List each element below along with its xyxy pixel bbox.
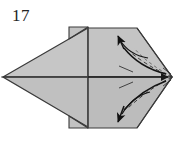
- origami-figure: 17: [0, 0, 176, 147]
- panel-lower-right: [88, 77, 172, 128]
- origami-diagram: [0, 0, 176, 147]
